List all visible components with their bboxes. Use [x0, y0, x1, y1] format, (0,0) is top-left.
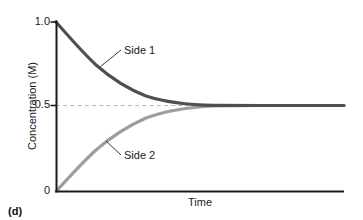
series-curve-side-2 [56, 106, 344, 192]
chart-figure: 1.0 0.5 0 Concentration (M) Time Side 1 … [0, 0, 363, 220]
series-label-side-1: Side 1 [124, 44, 155, 56]
series-curve-side-1 [56, 22, 344, 106]
y-axis-title: Concentration (M) [26, 26, 38, 186]
panel-caption: (d) [8, 205, 22, 217]
leader-line-side-2 [106, 141, 121, 155]
chart-plot-area [0, 0, 363, 220]
series-label-side-2: Side 2 [124, 149, 155, 161]
leader-line-side-1 [101, 50, 122, 67]
x-axis-title: Time [160, 196, 240, 208]
y-axis-tick-label-0: 0 [16, 185, 50, 196]
